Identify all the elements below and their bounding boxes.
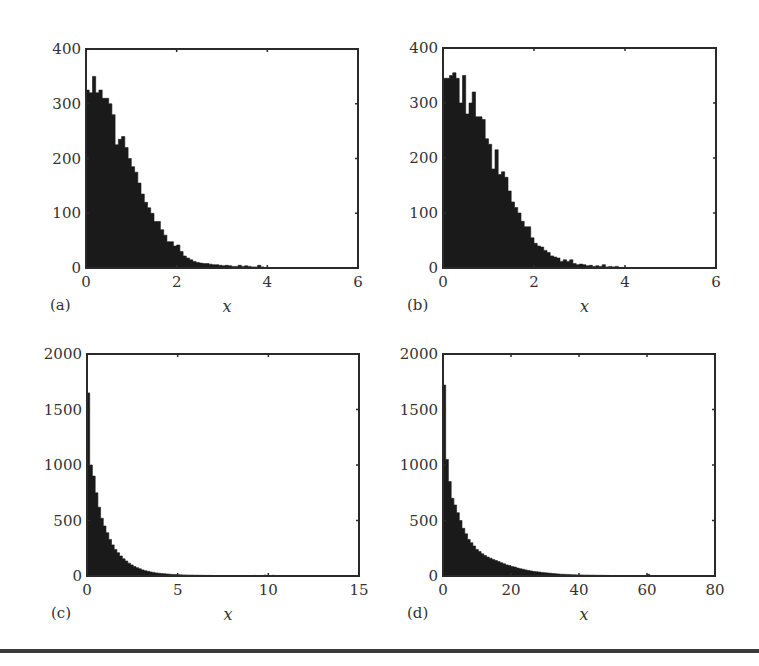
- x-tick-label: 0: [438, 581, 448, 599]
- y-tick-label: 300: [409, 94, 438, 112]
- x-tick-label: 80: [705, 581, 724, 599]
- x-axis-label: x: [222, 297, 231, 316]
- y-tick-label: 500: [53, 512, 82, 530]
- plot-frame: [87, 354, 359, 576]
- x-tick-label: 4: [263, 273, 273, 291]
- histogram-bars: [86, 76, 358, 268]
- plot-frame: [443, 354, 715, 576]
- panel-a: 02460100200300400(a)x: [50, 40, 363, 316]
- panel-c: 0510150500100015002000(c)x: [44, 345, 369, 624]
- y-tick-label: 500: [409, 512, 438, 530]
- y-tick-label: 0: [428, 259, 438, 277]
- y-tick-label: 300: [52, 95, 81, 113]
- x-tick-label: 40: [569, 581, 588, 599]
- x-tick-label: 0: [82, 581, 92, 599]
- y-tick-label: 1500: [44, 401, 82, 419]
- x-tick-label: 60: [637, 581, 656, 599]
- panel-d: 0204060800500100015002000(d)x: [400, 345, 725, 624]
- y-tick-label: 100: [409, 204, 438, 222]
- x-axis-label: x: [223, 605, 232, 624]
- y-tick-label: 200: [52, 150, 81, 168]
- y-tick-label: 400: [409, 39, 438, 57]
- x-tick-label: 0: [438, 273, 448, 291]
- panel-label: (d): [407, 604, 428, 622]
- x-tick-label: 6: [711, 273, 721, 291]
- y-tick-label: 2000: [400, 345, 438, 363]
- panel-b: 02460100200300400(b)x: [407, 39, 721, 316]
- x-tick-label: 5: [173, 581, 183, 599]
- y-tick-label: 400: [52, 40, 81, 58]
- panel-label: (b): [407, 296, 428, 314]
- x-tick-label: 6: [353, 273, 363, 291]
- x-tick-label: 0: [81, 273, 91, 291]
- y-tick-label: 200: [409, 149, 438, 167]
- y-tick-label: 1000: [400, 456, 438, 474]
- x-tick-label: 2: [529, 273, 539, 291]
- panel-label: (a): [50, 296, 71, 314]
- bottom-rule: [0, 649, 759, 653]
- histogram-bars: [443, 385, 661, 576]
- panel-label: (c): [51, 604, 71, 622]
- x-tick-label: 2: [172, 273, 182, 291]
- x-axis-label: x: [579, 605, 588, 624]
- y-tick-label: 100: [52, 204, 81, 222]
- x-tick-label: 15: [349, 581, 368, 599]
- y-tick-label: 0: [72, 567, 82, 585]
- histogram-bars: [87, 393, 359, 576]
- x-tick-label: 4: [620, 273, 630, 291]
- y-tick-label: 0: [71, 259, 81, 277]
- histogram-bars: [443, 73, 716, 268]
- x-tick-label: 20: [501, 581, 520, 599]
- y-tick-label: 2000: [44, 345, 82, 363]
- y-tick-label: 1500: [400, 401, 438, 419]
- x-axis-label: x: [580, 297, 589, 316]
- histogram-figure: 02460100200300400(a)x 02460100200300400(…: [0, 0, 759, 666]
- x-tick-label: 10: [259, 581, 278, 599]
- y-tick-label: 0: [428, 567, 438, 585]
- y-tick-label: 1000: [44, 456, 82, 474]
